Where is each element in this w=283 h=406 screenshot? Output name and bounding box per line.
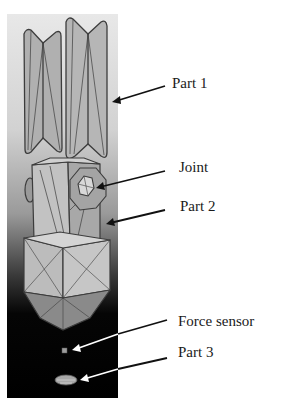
joint-arrow	[100, 171, 165, 187]
part3-arrow-outer	[118, 358, 167, 369]
label-joint: Joint	[179, 160, 208, 175]
robot-model-illustration	[0, 0, 283, 406]
force-sensor-arrow-inner	[76, 334, 118, 349]
label-part2: Part 2	[180, 199, 215, 214]
label-part1: Part 1	[172, 76, 207, 91]
part1-arrow	[116, 86, 165, 101]
part3-shape	[55, 375, 77, 385]
label-force-sensor: Force sensor	[178, 314, 254, 329]
part2-arrow	[110, 210, 165, 223]
part1-right-fin	[66, 18, 107, 159]
force-sensor-arrow-outer	[118, 320, 167, 334]
force-sensor-shape	[62, 348, 67, 353]
part1-left-fin	[24, 30, 62, 154]
part2-lower-box	[24, 232, 110, 330]
part3-arrow-inner	[84, 369, 118, 379]
label-part3: Part 3	[178, 345, 213, 360]
